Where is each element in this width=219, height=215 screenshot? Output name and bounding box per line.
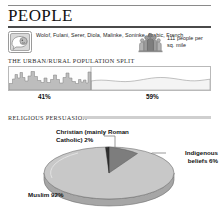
religious-persuasion-chart: Christian (mainly Roman Catholic) 2% Ind… [0,120,219,215]
section-rule-religion [83,116,211,119]
facts-row: Wolof, Fulani, Serer, Diola, Malinke, So… [8,31,211,56]
density-text: 111 people per sq. mile [167,31,211,50]
fact-population-density: 111 people per sq. mile [138,31,211,57]
speech-face-icon [8,31,32,57]
section-heading-urban-rural: THE URBAN/RURAL POPULATION SPLIT [8,57,135,65]
pie-label-muslim: Muslim 92% [28,191,63,199]
rural-percent-label: 59% [146,93,159,100]
title-rule-bottom [8,26,211,28]
pie-label-indigenous: Indigenous beliefs 6% [168,149,218,165]
page-title: PEOPLE [8,7,73,25]
urban-percent-label: 41% [38,93,51,100]
people-infographic-panel: PEOPLE Wolof, Fulani, Serer, Diola, Mali… [0,0,219,215]
people-crowd-icon [138,31,163,57]
pie-label-christian: Christian (mainly Roman Catholic) 2% [56,128,156,144]
urban-rural-split-chart [8,66,211,91]
urban-rural-labels: 41% 59% [8,93,211,103]
